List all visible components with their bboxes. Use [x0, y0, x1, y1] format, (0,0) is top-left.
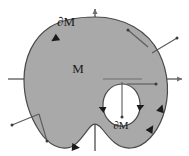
- outer-boundary-label: ∂M: [57, 14, 75, 29]
- hole-boundary-label: ∂M: [113, 119, 128, 131]
- manifold-boundary-figure: ∂M M ∂M: [0, 0, 189, 156]
- interior-label: M: [72, 61, 84, 76]
- figure-canvas: ∂M M ∂M: [0, 0, 189, 156]
